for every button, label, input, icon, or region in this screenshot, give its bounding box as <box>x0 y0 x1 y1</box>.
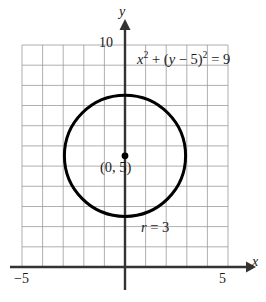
circle-graph-figure: y x 10 −5 5 x2 + (y − 5)2 = 9 (0, 5) r =… <box>0 0 266 302</box>
y-axis-arrowhead <box>120 19 131 30</box>
equation-operator-plus: + ( <box>148 51 168 67</box>
center-coordinate-label: (0, 5) <box>100 160 131 175</box>
y-tick-label-10: 10 <box>99 36 113 50</box>
x-tick-label-5: 5 <box>219 272 226 286</box>
x-axis-label: x <box>252 255 258 269</box>
equation-term-minus5: − 5) <box>175 51 203 67</box>
coordinate-plane-svg <box>0 0 266 302</box>
equation-annotation: x2 + (y − 5)2 = 9 <box>137 52 230 67</box>
equation-right-side: = 9 <box>208 51 231 67</box>
y-axis-label: y <box>119 5 125 19</box>
radius-value: = 3 <box>147 219 170 235</box>
x-tick-label-minus5: −5 <box>14 272 29 286</box>
radius-annotation: r = 3 <box>141 220 169 235</box>
